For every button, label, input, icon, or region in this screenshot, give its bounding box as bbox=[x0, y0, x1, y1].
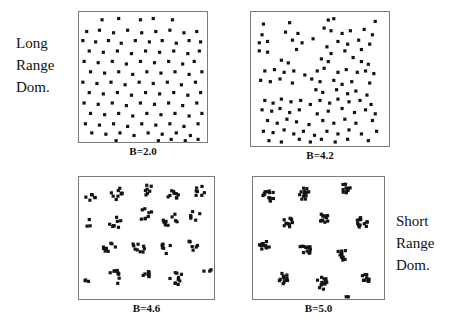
panel-caption-b46: B=4.6 bbox=[78, 302, 215, 314]
scatter-panel-figure: Long Range Dom. Short Range Dom. B=2.0 B… bbox=[0, 0, 454, 322]
scatter-panel-b46 bbox=[78, 176, 215, 300]
short-range-dom-label: Short Range Dom. bbox=[396, 210, 434, 276]
scatter-panel-b20 bbox=[78, 11, 208, 143]
scatter-canvas-b42 bbox=[251, 12, 389, 146]
long-range-dom-line-1: Long bbox=[16, 32, 54, 54]
scatter-canvas-b50 bbox=[253, 177, 384, 299]
short-range-dom-line-3: Dom. bbox=[396, 254, 434, 276]
scatter-panel-b50 bbox=[252, 176, 385, 300]
panel-caption-b50: B=5.0 bbox=[252, 302, 385, 314]
long-range-dom-line-3: Dom. bbox=[16, 76, 54, 98]
short-range-dom-line-2: Range bbox=[396, 232, 434, 254]
scatter-panel-b42 bbox=[250, 11, 390, 147]
panel-caption-b20: B=2.0 bbox=[78, 145, 208, 157]
scatter-canvas-b46 bbox=[79, 177, 214, 299]
scatter-canvas-b20 bbox=[79, 12, 207, 142]
long-range-dom-label: Long Range Dom. bbox=[16, 32, 54, 98]
short-range-dom-line-1: Short bbox=[396, 210, 434, 232]
panel-caption-b42: B=4.2 bbox=[250, 149, 390, 161]
long-range-dom-line-2: Range bbox=[16, 54, 54, 76]
